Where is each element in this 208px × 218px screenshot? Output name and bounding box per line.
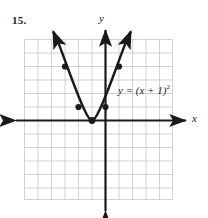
plot-point	[62, 63, 68, 69]
graph-figure: 15.	[0, 0, 208, 218]
y-axis-label: y	[99, 12, 104, 24]
equation-label: y = (x + 1)2	[118, 83, 170, 96]
equation-text: y = (x + 1)	[118, 84, 166, 96]
plot-point	[102, 104, 108, 110]
coordinate-plane	[0, 0, 208, 218]
x-axis-label: x	[192, 112, 197, 124]
plot-point	[116, 63, 122, 69]
plot-point	[75, 104, 81, 110]
plot-point	[89, 117, 96, 124]
equation-exponent: 2	[166, 83, 170, 91]
